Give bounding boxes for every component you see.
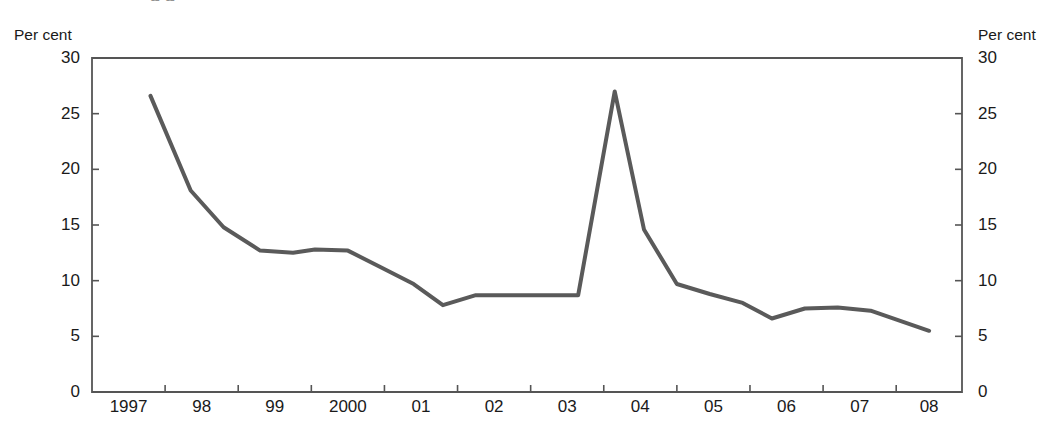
chart-figure: g g Per cent Per cent 051015202530 05101… [0,0,1055,444]
data-line-group [150,91,929,330]
plot-area [0,0,1055,444]
data-line [150,91,929,330]
axis-tick-marks [92,114,962,392]
